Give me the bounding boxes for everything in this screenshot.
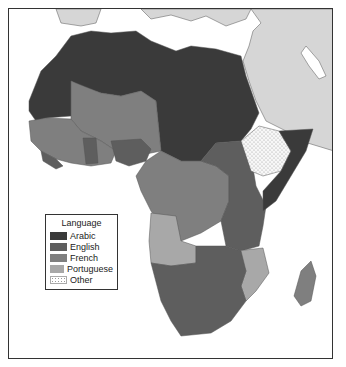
swatch-other	[50, 276, 67, 284]
swatch-french	[50, 254, 67, 262]
europe-land-2	[141, 9, 251, 26]
europe-land	[56, 9, 101, 26]
map-frame: Language Arabic English French Portugues…	[8, 8, 333, 359]
legend-item-portuguese: Portuguese	[50, 263, 113, 274]
africa-map	[9, 9, 333, 359]
legend-label: Portuguese	[67, 264, 113, 274]
legend-item-french: French	[50, 252, 113, 263]
legend-title: Language	[50, 218, 113, 228]
swatch-english	[50, 243, 67, 251]
legend-item-other: Other	[50, 274, 113, 285]
swatch-portuguese	[50, 265, 64, 273]
region-nigeria	[111, 139, 151, 166]
region-madagascar	[294, 261, 316, 306]
legend-label: English	[70, 242, 100, 252]
swatch-arabic	[50, 232, 67, 240]
legend-label: French	[70, 253, 98, 263]
legend-label: Other	[70, 275, 93, 285]
map-legend: Language Arabic English French Portugues…	[45, 214, 118, 290]
legend-item-arabic: Arabic	[50, 230, 113, 241]
legend-item-english: English	[50, 241, 113, 252]
legend-label: Arabic	[70, 231, 96, 241]
